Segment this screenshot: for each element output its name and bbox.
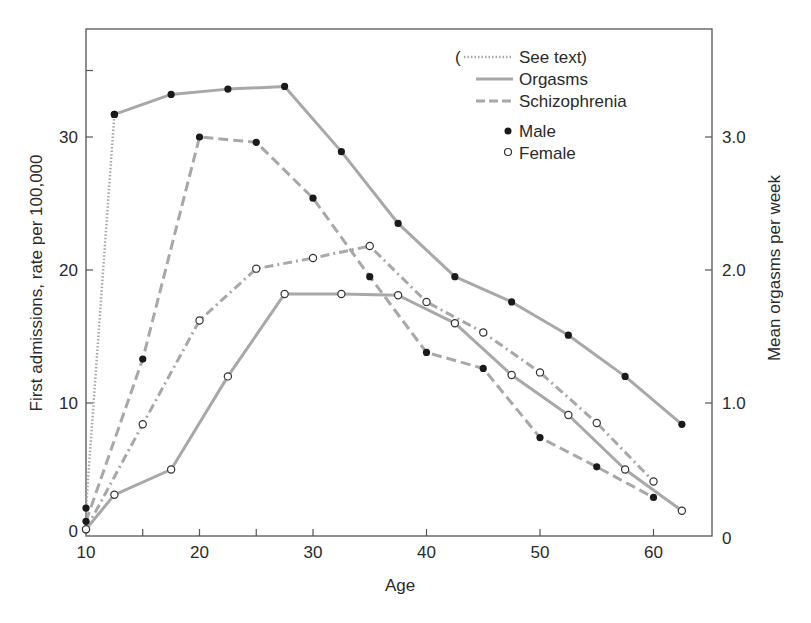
female-data-point [253, 265, 260, 272]
y-right-tick-labels: 0 1.0 2.0 3.0 [722, 128, 746, 548]
male-data-point [650, 494, 657, 501]
male-data-point [395, 220, 402, 227]
legend-female: Female [519, 144, 576, 163]
male-data-point [508, 298, 515, 305]
y-right-axis-ticks [705, 137, 712, 403]
female-data-point [366, 242, 373, 249]
y-axis-title: First admissions, rate per 100,000 [27, 154, 46, 411]
male-data-point [224, 86, 231, 93]
y-right-tick-label: 2.0 [722, 261, 746, 280]
legend: ( See text) Orgasms Schizophrenia Male F… [455, 48, 627, 163]
legend-male: Male [519, 122, 556, 141]
male-data-point [139, 356, 146, 363]
chart: 10 20 30 40 50 60 0 10 20 30 0 1.0 2.0 3… [0, 0, 811, 623]
female-data-point [168, 466, 175, 473]
male-data-point [196, 133, 203, 140]
legend-schizophrenia: Schizophrenia [519, 92, 627, 111]
female-data-point [622, 466, 629, 473]
male-data-point [338, 148, 345, 155]
female-data-point [451, 320, 458, 327]
x-tick-label: 50 [531, 543, 550, 562]
y-tick-label: 20 [59, 261, 78, 280]
male-data-point [82, 504, 89, 511]
female-data-point [281, 290, 288, 297]
x-tick-label: 30 [304, 543, 323, 562]
legend-female-marker-icon [505, 149, 512, 156]
male-data-point [253, 139, 260, 146]
female-data-point [480, 329, 487, 336]
y-right-tick-label: 0 [722, 529, 731, 548]
y-tick-label: 0 [69, 522, 78, 541]
male-data-point [451, 273, 458, 280]
y-axis-ticks [86, 71, 93, 404]
series-line-schizophrenia-male [86, 137, 654, 521]
female-data-point [309, 254, 316, 261]
female-data-point [224, 373, 231, 380]
x-tick-labels: 10 20 30 40 50 60 [77, 543, 663, 562]
x-tick-label: 60 [644, 543, 663, 562]
y-right-tick-label: 1.0 [722, 394, 746, 413]
male-data-point [309, 195, 316, 202]
series-lines [86, 86, 682, 529]
male-data-point [111, 111, 118, 118]
female-data-point [678, 507, 685, 514]
female-data-point [395, 292, 402, 299]
x-axis-title: Age [385, 576, 415, 595]
female-data-point [565, 411, 572, 418]
x-tick-label: 20 [190, 543, 209, 562]
female-data-point [139, 421, 146, 428]
series-line-orgasms-female [86, 294, 682, 529]
female-data-point [196, 317, 203, 324]
male-data-point [593, 463, 600, 470]
female-data-point [111, 491, 118, 498]
y-right-tick-label: 3.0 [722, 128, 746, 147]
male-data-point [678, 421, 685, 428]
male-data-point [536, 434, 543, 441]
series-line-schizophrenia-female [86, 246, 654, 529]
female-data-point [82, 526, 89, 533]
x-axis-ticks [143, 529, 654, 536]
female-data-point [650, 478, 657, 485]
male-data-point [366, 273, 373, 280]
x-tick-label: 10 [77, 543, 96, 562]
legend-see-text: See text) [519, 48, 587, 67]
male-data-point [565, 332, 572, 339]
female-data-point [338, 290, 345, 297]
female-data-point [423, 298, 430, 305]
legend-paren: ( [455, 48, 461, 67]
female-data-point [536, 369, 543, 376]
male-data-point [423, 349, 430, 356]
y-tick-labels: 0 10 20 30 [59, 128, 78, 541]
female-data-point [508, 371, 515, 378]
male-data-point [168, 91, 175, 98]
y-right-axis-title: Mean orgasms per week [765, 174, 784, 361]
y-tick-label: 30 [59, 128, 78, 147]
male-data-point [480, 365, 487, 372]
female-data-point [593, 419, 600, 426]
legend-orgasms: Orgasms [519, 70, 588, 89]
x-tick-label: 40 [417, 543, 436, 562]
male-data-point [82, 518, 89, 525]
y-tick-label: 10 [59, 394, 78, 413]
male-data-point [622, 373, 629, 380]
legend-male-marker-icon [505, 128, 512, 135]
male-data-point [281, 83, 288, 90]
